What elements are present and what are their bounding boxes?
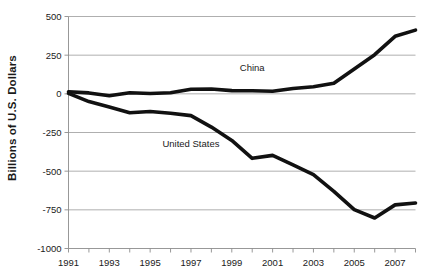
- y-tick-label: -750: [42, 204, 61, 215]
- series-line-united-states: [69, 93, 416, 218]
- x-tick-label: 1993: [99, 257, 120, 268]
- chart-container: Billions of U.S. Dollars 5002500-250-500…: [0, 0, 423, 279]
- data-series: [69, 30, 416, 218]
- x-tick-label: 1991: [58, 257, 79, 268]
- y-tick-label: -500: [42, 166, 61, 177]
- x-tick-label: 2005: [344, 257, 365, 268]
- y-axis-tick-labels: 5002500-250-500-750-1000: [37, 11, 61, 254]
- y-tick-label: 500: [46, 11, 62, 22]
- series-label-china: China: [240, 62, 266, 73]
- y-tick-label: 250: [46, 50, 62, 61]
- series-annotations: ChinaUnited States: [162, 62, 265, 150]
- x-tick-label: 2007: [385, 257, 406, 268]
- x-tick-label: 1997: [180, 257, 201, 268]
- y-tick-label: 0: [56, 88, 61, 99]
- gridlines: [69, 17, 416, 210]
- x-axis-tickmarks: [65, 17, 416, 253]
- x-axis-tick-labels: 199119931995199719992001200320052007: [58, 257, 406, 268]
- x-tick-label: 1999: [221, 257, 242, 268]
- y-tick-label: -250: [42, 127, 61, 138]
- y-tick-label: -1000: [37, 243, 61, 254]
- series-label-united-states: United States: [162, 138, 219, 149]
- x-tick-label: 2001: [262, 257, 283, 268]
- x-tick-label: 1995: [140, 257, 161, 268]
- x-tick-label: 2003: [303, 257, 324, 268]
- line-chart-plot: 5002500-250-500-750-1000 199119931995199…: [0, 0, 423, 279]
